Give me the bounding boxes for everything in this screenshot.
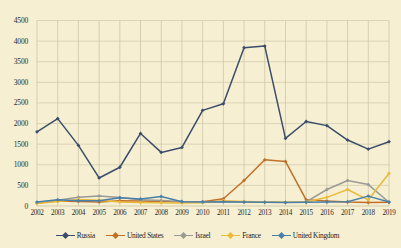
legend-marker-icon: [56, 232, 75, 240]
legend-item-label: Russia: [77, 231, 95, 240]
gridlines: [37, 21, 389, 207]
y-axis-tick-label: 1000: [2, 160, 28, 169]
y-axis-tick-label: 2000: [2, 119, 28, 128]
y-axis-tick-label: 4000: [2, 37, 28, 46]
legend-item-label: France: [242, 231, 261, 240]
legend-item-israel[interactable]: Israel: [174, 231, 210, 240]
vertical-gridlines: [37, 21, 389, 207]
x-axis-tick-label: 2019: [377, 209, 401, 217]
chart-legend: RussiaUnited StatesIsraelFranceUnited Ki…: [0, 231, 395, 240]
legend-item-united-states[interactable]: United States: [106, 231, 163, 240]
y-axis-tick-label: 1500: [2, 140, 28, 149]
legend-item-label: Israel: [195, 231, 210, 240]
legend-marker-icon: [106, 232, 125, 240]
legend-marker-icon: [272, 232, 291, 240]
legend-item-russia[interactable]: Russia: [56, 231, 95, 240]
y-axis-tick-label: 2500: [2, 98, 28, 107]
legend-item-france[interactable]: France: [221, 231, 261, 240]
legend-marker-icon: [221, 232, 240, 240]
legend-item-label: United States: [127, 231, 163, 240]
y-axis-tick-label: 4500: [2, 16, 28, 25]
y-axis-tick-label: 3500: [2, 57, 28, 66]
series-russia: [35, 44, 391, 180]
legend-marker-icon: [174, 232, 193, 240]
legend-item-label: United Kingdom: [293, 231, 339, 240]
y-axis-tick-label: 3000: [2, 78, 28, 87]
y-axis-tick-label: 500: [2, 181, 28, 190]
legend-item-united-kingdom[interactable]: United Kingdom: [272, 231, 339, 240]
